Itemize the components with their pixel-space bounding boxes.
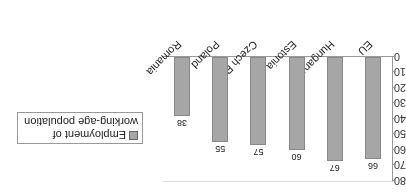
y-tick-label: 60 [394, 144, 406, 156]
y-tick-mark [392, 103, 396, 104]
y-tick-label: 70 [394, 160, 406, 172]
y-tick-label: 40 [394, 113, 406, 125]
data-label: 66 [358, 161, 388, 171]
data-label: 60 [282, 152, 312, 162]
y-tick-label: 20 [394, 82, 406, 94]
data-label: 38 [167, 118, 197, 128]
bar [365, 57, 381, 159]
y-tick-mark [392, 180, 396, 181]
y-tick-label: 0 [394, 51, 406, 63]
bar [289, 57, 305, 150]
y-tick-mark [392, 134, 396, 135]
data-label: 57 [243, 147, 273, 157]
y-tick-label: 30 [394, 98, 406, 110]
y-tick-mark [392, 165, 396, 166]
x-tick-label: EU [356, 39, 375, 58]
y-tick-mark [392, 87, 396, 88]
y-tick-mark [392, 72, 396, 73]
plot-area: 0102030405060708066EU67Hungary60Estonia5… [163, 56, 393, 182]
bar [212, 57, 228, 142]
y-tick-mark [392, 118, 396, 119]
data-label: 55 [205, 144, 235, 154]
y-tick-label: 80 [394, 175, 406, 187]
legend-label-line1: Employment of [53, 129, 126, 141]
y-tick-label: 10 [394, 67, 406, 79]
bar [174, 57, 190, 116]
legend-swatch [129, 131, 138, 140]
data-label: 67 [320, 163, 350, 173]
y-tick-mark [392, 56, 396, 57]
bar [250, 57, 266, 145]
y-tick-mark [392, 149, 396, 150]
legend-label-line2: working-age population [24, 116, 138, 128]
legend: Employment of working-age population [17, 112, 143, 144]
bar [327, 57, 343, 161]
y-tick-label: 50 [394, 129, 406, 141]
